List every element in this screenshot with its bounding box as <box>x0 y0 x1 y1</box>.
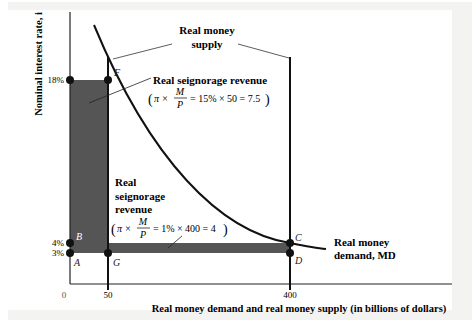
label-A: A <box>73 257 81 268</box>
x-tick-50: 50 <box>104 290 114 300</box>
y-axis-title: Nominal interest rate, i <box>33 12 44 116</box>
x-axis-title: Real money demand and real money supply … <box>152 303 447 315</box>
seig-low-frac-den: P <box>139 229 146 240</box>
supply-label-line2: supply <box>191 38 223 50</box>
label-D: D <box>294 255 303 266</box>
seig-low-pi: π × <box>117 223 131 234</box>
label-C: C <box>295 232 302 243</box>
label-B: B <box>76 231 82 242</box>
seig-low-paren-close: ) <box>223 222 228 238</box>
demand-label-line1: Real money <box>334 236 390 248</box>
y-tick-4: 4% <box>52 238 65 248</box>
seig-high-frac-num: M <box>175 86 185 97</box>
seig-low-frac-num: M <box>138 216 148 227</box>
money-demand-curve <box>94 25 326 249</box>
seig-high-paren-open: ( <box>148 92 153 108</box>
seig-low-formula: = 1% × 400 = 4 <box>153 223 216 234</box>
seig-low-paren-open: ( <box>111 222 116 238</box>
seig-high-paren-close: ) <box>265 92 270 108</box>
point-G <box>104 249 112 257</box>
seig-high-formula: = 15% × 50 = 7.5 <box>190 93 260 104</box>
seig-high-frac-den: P <box>176 99 183 110</box>
seig-low-line3: revenue <box>115 203 152 215</box>
supply-label-line1: Real money <box>179 24 235 36</box>
seig-low-line2: seignorage <box>115 190 165 202</box>
point-D <box>286 249 294 257</box>
label-E: E <box>73 67 80 78</box>
seig-high-pi: π × <box>154 93 168 104</box>
x-tick-400: 400 <box>283 290 297 300</box>
seignorage-chart: E F B A G C D 18% 4% 3% 0 50 400 Nominal… <box>0 0 473 327</box>
seig-high-title: Real seignorage revenue <box>153 74 267 86</box>
label-F: F <box>113 67 121 78</box>
point-B <box>66 239 74 247</box>
point-A <box>66 249 74 257</box>
label-G: G <box>113 257 120 268</box>
seignorage-area-high <box>70 80 108 253</box>
point-F <box>104 76 112 84</box>
supply-leader-right <box>238 44 289 58</box>
y-tick-18: 18% <box>48 75 65 85</box>
seignorage-area-low <box>108 243 290 253</box>
supply-leader-left <box>113 44 172 59</box>
seig-low-line1: Real <box>115 176 136 188</box>
x-tick-0: 0 <box>62 290 67 300</box>
demand-label-line2: demand, MD <box>334 249 396 261</box>
point-E <box>66 76 74 84</box>
point-C <box>286 239 294 247</box>
y-tick-3: 3% <box>52 248 65 258</box>
